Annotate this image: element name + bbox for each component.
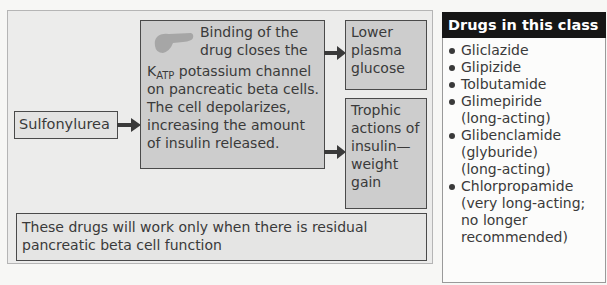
- list-item: Glibenclamide (glyburide) (long-acting): [449, 127, 605, 178]
- outcome-line: insulin—: [351, 137, 421, 155]
- bullet-icon: [449, 48, 455, 54]
- bullet-icon: [449, 65, 455, 71]
- outcome-line: glucose: [351, 59, 421, 77]
- drugs-panel-title: Drugs in this class: [442, 12, 606, 38]
- drug-note: (glyburide): [461, 144, 605, 161]
- mechanism-line-6: increasing the amount: [147, 116, 319, 134]
- drug-list: Gliclazide Glipizide Tolbutamide Glimepi…: [443, 42, 605, 246]
- outcome-line: plasma: [351, 41, 421, 59]
- mechanism-box: Binding of the drug closes the KATP pota…: [140, 20, 325, 169]
- outcome-lower-glucose: Lower plasma glucose: [345, 20, 427, 90]
- drug-note: (very long-acting;: [461, 195, 605, 212]
- note-line-2: pancreatic beta cell function: [22, 236, 421, 254]
- list-item: Glipizide: [449, 59, 605, 76]
- drug-note: (long-acting): [461, 110, 605, 127]
- drug-name: Glibenclamide: [461, 127, 561, 143]
- bullet-icon: [449, 184, 455, 190]
- list-item: Tolbutamide: [449, 76, 605, 93]
- drug-note: no longer: [461, 212, 605, 229]
- drug-note: (long-acting): [461, 161, 605, 178]
- outcome-line: actions of: [351, 119, 421, 137]
- outcome-line: Trophic: [351, 101, 421, 119]
- list-item: Glimepiride (long-acting): [449, 93, 605, 127]
- mechanism-line-5: The cell depolarizes,: [147, 98, 319, 116]
- bullet-icon: [449, 82, 455, 88]
- mechanism-line-3: KATP potassium channel: [147, 62, 319, 80]
- outcome-weight-gain: Trophic actions of insulin— weight gain: [345, 98, 427, 209]
- list-item: Chlorpropamide (very long-acting; no lon…: [449, 178, 605, 246]
- note-line-1: These drugs will work only when there is…: [22, 218, 421, 236]
- bullet-icon: [449, 99, 455, 105]
- drug-box: Sulfonylurea: [14, 111, 118, 139]
- drug-label: Sulfonylurea: [19, 116, 110, 132]
- pancreas-icon: [153, 31, 195, 55]
- drugs-in-class-panel: Drugs in this class Gliclazide Glipizide…: [442, 12, 606, 283]
- drug-name: Tolbutamide: [461, 76, 546, 92]
- arrow-right-icon: [324, 145, 346, 159]
- k-symbol: K: [147, 63, 156, 79]
- drug-name: Glimepiride: [461, 93, 542, 109]
- outcome-line: Lower: [351, 23, 421, 41]
- arrow-right-icon: [117, 118, 141, 132]
- drug-name: Gliclazide: [461, 42, 529, 58]
- drug-name: Glipizide: [461, 59, 521, 75]
- mechanism-line-4: on pancreatic beta cells.: [147, 80, 319, 98]
- drug-note: recommended): [461, 229, 605, 246]
- mechanism-line-3-rest: potassium channel: [174, 63, 311, 79]
- bullet-icon: [449, 133, 455, 139]
- mechanism-line-7: of insulin released.: [147, 134, 319, 152]
- note-box: These drugs will work only when there is…: [16, 213, 427, 261]
- arrow-right-icon: [324, 46, 346, 60]
- list-item: Gliclazide: [449, 42, 605, 59]
- drug-name: Chlorpropamide: [461, 178, 573, 194]
- outcome-line: weight: [351, 155, 421, 173]
- outcome-line: gain: [351, 173, 421, 191]
